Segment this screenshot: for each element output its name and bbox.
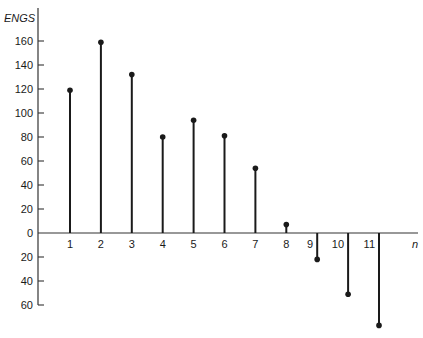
stem-marker [191, 117, 197, 123]
x-axis-title: n [412, 238, 418, 250]
stem-series [67, 39, 382, 328]
stem-marker [345, 291, 351, 297]
x-tick-label: 9 [307, 238, 313, 250]
stem-marker [98, 39, 104, 45]
chart-canvas: ENGS 160140120100806040200204060 1234567… [0, 0, 423, 338]
y-tick-label: 0 [27, 227, 33, 239]
x-tick-label: 10 [332, 238, 344, 250]
x-tick-label: 2 [98, 238, 104, 250]
stem-7 [253, 165, 259, 233]
x-tick-label: 3 [129, 238, 135, 250]
stem-marker [160, 134, 166, 140]
stem-marker [67, 87, 73, 93]
stem-4 [160, 134, 166, 233]
stem-marker [129, 72, 135, 78]
stem-marker [222, 133, 228, 139]
y-axis-title: ENGS [4, 12, 36, 24]
y-tick-label: 100 [15, 107, 33, 119]
x-tick-label: 6 [221, 238, 227, 250]
stem-3 [129, 72, 135, 233]
stem-10 [345, 233, 351, 297]
x-tick-label: 4 [160, 238, 166, 250]
x-tick-label: 1 [67, 238, 73, 250]
y-tick-label: 20 [21, 251, 33, 263]
x-axis: 1234567891011 [38, 233, 418, 250]
y-tick-label: 40 [21, 275, 33, 287]
stem-1 [67, 87, 73, 233]
y-tick-label: 20 [21, 203, 33, 215]
y-tick-label: 40 [21, 179, 33, 191]
stem-marker [284, 222, 290, 228]
x-tick-label: 11 [364, 238, 375, 250]
y-tick-label: 140 [15, 59, 33, 71]
stem-marker [314, 257, 320, 263]
stem-marker [376, 323, 382, 329]
stem-8 [284, 222, 290, 233]
y-tick-label: 60 [21, 155, 33, 167]
y-tick-label: 60 [21, 299, 33, 311]
x-tick-label: 5 [191, 238, 197, 250]
stem-11 [376, 233, 382, 328]
stem-2 [98, 39, 104, 233]
y-tick-label: 120 [15, 83, 33, 95]
x-tick-label: 7 [252, 238, 258, 250]
stem-5 [191, 117, 197, 233]
y-tick-label: 160 [15, 35, 33, 47]
stem-marker [253, 165, 259, 171]
y-tick-label: 80 [21, 131, 33, 143]
y-axis: 160140120100806040200204060 [15, 8, 44, 311]
x-tick-label: 8 [283, 238, 289, 250]
stem-chart: ENGS 160140120100806040200204060 1234567… [0, 0, 423, 338]
stem-6 [222, 133, 228, 233]
stem-9 [314, 233, 320, 262]
